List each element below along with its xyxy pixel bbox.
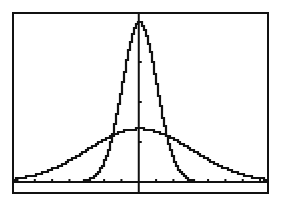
axes <box>14 14 267 192</box>
calculator-graph-screen <box>12 12 269 194</box>
graph-plot <box>14 14 267 192</box>
curve-sd-3 <box>14 128 267 180</box>
